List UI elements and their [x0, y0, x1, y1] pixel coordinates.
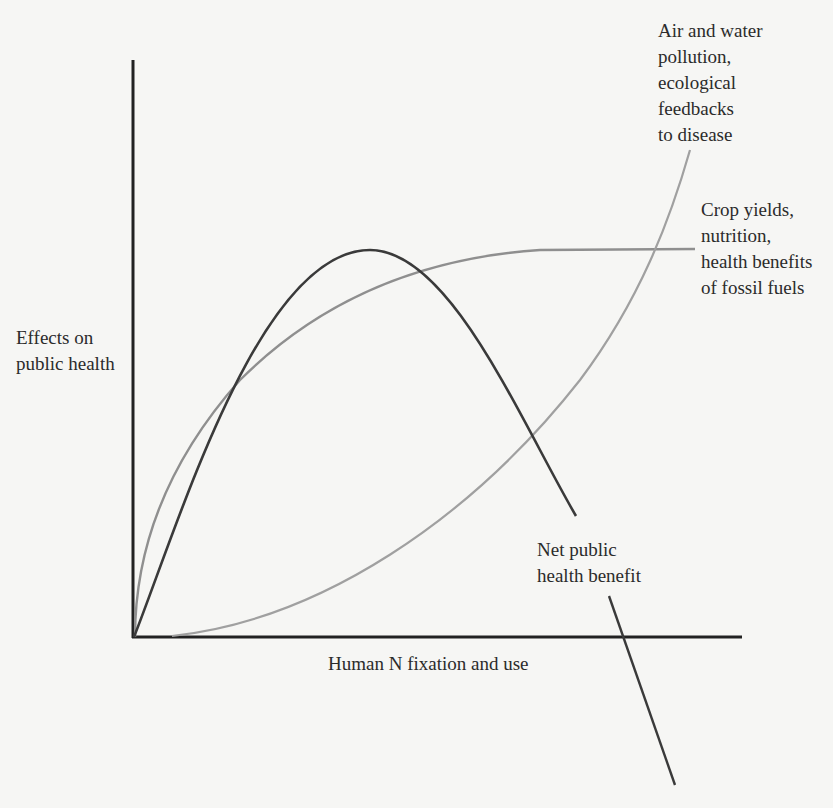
- y-axis-label-line: Effects on: [16, 325, 115, 351]
- pollution-label-line: ecological: [658, 70, 762, 96]
- y-axis-label: Effects on public health: [16, 325, 115, 377]
- crop-label-line: health benefits: [701, 249, 812, 275]
- net-label-line: Net public: [537, 537, 641, 563]
- crop-label-line: of fossil fuels: [701, 275, 812, 301]
- pollution-label-line: pollution,: [658, 44, 762, 70]
- pollution-label-line: to disease: [658, 122, 762, 148]
- pollution-label-line: Air and water: [658, 18, 762, 44]
- crop-label-line: Crop yields,: [701, 197, 812, 223]
- x-axis-label: Human N fixation and use: [328, 651, 529, 677]
- crop-curve-label: Crop yields, nutrition, health benefits …: [701, 197, 812, 301]
- y-axis-label-line: public health: [16, 351, 115, 377]
- net-benefit-tail: [609, 596, 675, 785]
- crop-label-line: nutrition,: [701, 223, 812, 249]
- net-label-line: health benefit: [537, 563, 641, 589]
- net-benefit-label: Net public health benefit: [537, 537, 641, 589]
- net-benefit-curve: [134, 250, 576, 637]
- pollution-label-line: feedbacks: [658, 96, 762, 122]
- pollution-curve-label: Air and water pollution, ecological feed…: [658, 18, 762, 148]
